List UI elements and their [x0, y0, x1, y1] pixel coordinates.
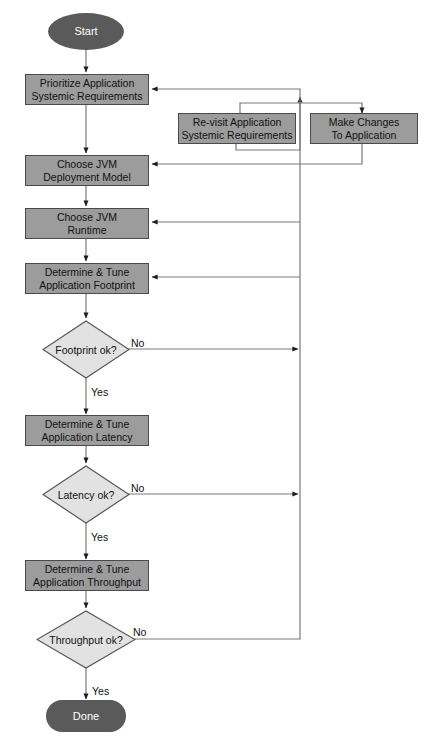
node-choose-jvm-deployment-model[interactable]: Choose JVM Deployment Model — [25, 155, 149, 186]
edge-label-footprint-yes: Yes — [91, 386, 108, 398]
node-tune-throughput-line2: Application Throughput — [33, 576, 141, 588]
edge-label-latency-no: No — [131, 482, 144, 494]
node-make-changes-line2: To Application — [329, 129, 400, 141]
node-choose-runtime-line2: Runtime — [57, 224, 117, 236]
node-make-changes-line1: Make Changes — [329, 116, 400, 128]
node-footprint-ok-label: Footprint ok? — [42, 320, 130, 379]
node-footprint-ok-decision[interactable]: Footprint ok? — [42, 320, 130, 379]
node-tune-latency-line1: Determine & Tune — [41, 418, 132, 430]
node-prioritize-line2: Systemic Requirements — [32, 90, 143, 102]
node-tune-throughput-line1: Determine & Tune — [33, 563, 141, 575]
node-revisit-application-systemic-requirements[interactable]: Re-visit Application Systemic Requiremen… — [178, 113, 296, 144]
node-latency-ok-label: Latency ok? — [42, 465, 130, 524]
node-choose-jvm-runtime[interactable]: Choose JVM Runtime — [25, 208, 149, 239]
node-throughput-ok-label: Throughput ok? — [36, 610, 136, 669]
node-tune-footprint-line1: Determine & Tune — [39, 266, 135, 278]
node-choose-model-line2: Deployment Model — [43, 171, 131, 183]
node-determine-tune-application-latency[interactable]: Determine & Tune Application Latency — [25, 415, 149, 446]
node-latency-ok-decision[interactable]: Latency ok? — [42, 465, 130, 524]
node-prioritize-line1: Prioritize Application — [32, 77, 143, 89]
edge-label-throughput-no: No — [133, 626, 146, 638]
node-throughput-ok-decision[interactable]: Throughput ok? — [36, 610, 136, 669]
edge-label-throughput-yes: Yes — [92, 685, 109, 697]
edge-label-footprint-no: No — [131, 337, 144, 349]
node-revisit-line2: Systemic Requirements — [182, 129, 293, 141]
node-revisit-line1: Re-visit Application — [182, 116, 293, 128]
edge-label-latency-yes: Yes — [91, 531, 108, 543]
node-done-label: Done — [73, 710, 99, 723]
node-choose-runtime-line1: Choose JVM — [57, 211, 117, 223]
node-prioritize-application-systemic-requirements[interactable]: Prioritize Application Systemic Requirem… — [25, 74, 149, 105]
flowchart-canvas: Start Prioritize Application Systemic Re… — [0, 0, 433, 739]
node-start[interactable]: Start — [48, 13, 124, 50]
node-tune-latency-line2: Application Latency — [41, 431, 132, 443]
node-make-changes-to-application[interactable]: Make Changes To Application — [310, 113, 418, 144]
node-determine-tune-application-throughput[interactable]: Determine & Tune Application Throughput — [25, 560, 149, 591]
node-done[interactable]: Done — [46, 700, 126, 732]
node-choose-model-line1: Choose JVM — [43, 158, 131, 170]
node-start-label: Start — [74, 25, 97, 38]
node-determine-tune-application-footprint[interactable]: Determine & Tune Application Footprint — [25, 263, 149, 294]
node-tune-footprint-line2: Application Footprint — [39, 279, 135, 291]
edge-make-changes-to-choose-model — [152, 143, 362, 164]
edge-throughput-no-trunk-riser — [128, 97, 300, 639]
